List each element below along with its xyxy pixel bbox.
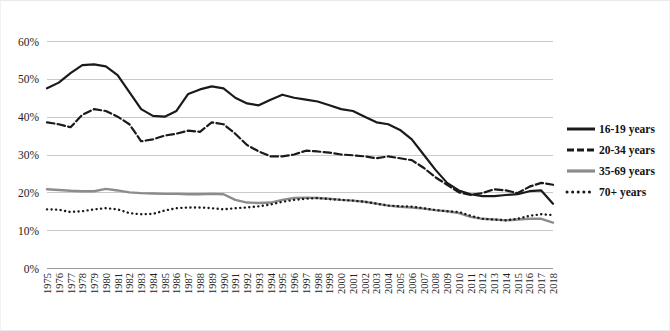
x-axis-tick-label: 2010 [454, 273, 465, 294]
y-axis-tick-label: 40% [18, 111, 40, 123]
x-axis-tick-label: 2017 [536, 273, 547, 294]
x-axis-tick-label: 1986 [171, 273, 182, 294]
gridlines [47, 42, 553, 269]
x-axis-tick-label: 1982 [124, 273, 135, 294]
x-axis-tick-label: 1993 [254, 273, 265, 294]
x-axis-tick-label: 1987 [183, 273, 194, 294]
x-axis-tick-label: 2000 [336, 273, 347, 294]
x-axis-tick-label: 2015 [513, 273, 524, 294]
x-axis-tick-label: 2018 [548, 273, 559, 294]
data-series [47, 64, 553, 222]
x-axis-tick-label: 2004 [383, 272, 394, 294]
x-axis-tick-label: 2001 [348, 273, 359, 294]
y-axis-tick-label: 0% [24, 263, 40, 275]
x-axis-tick-label: 2005 [395, 273, 406, 294]
x-axis-tick-label: 1997 [301, 273, 312, 294]
x-axis-tick-label: 1999 [324, 273, 335, 294]
x-axis-tick-label: 1980 [101, 273, 112, 294]
x-axis-tick-label: 2012 [477, 273, 488, 294]
x-axis-tick-labels: 1975197619771978197919801981198219831984… [42, 272, 559, 294]
legend-label-20-34-years: 20-34 years [599, 144, 655, 157]
x-axis-tick-label: 1983 [136, 273, 147, 294]
x-axis-tick-label: 2016 [524, 273, 535, 294]
x-axis-tick-label: 2007 [419, 273, 430, 294]
y-axis-tick-label: 10% [18, 225, 40, 237]
x-axis-tick-label: 2006 [407, 273, 418, 294]
x-axis-tick-label: 2009 [442, 273, 453, 294]
x-axis-tick-label: 1992 [242, 273, 253, 294]
y-axis-tick-label: 50% [18, 73, 40, 85]
y-axis-tick-labels: 0%10%20%30%40%50%60% [18, 36, 40, 275]
x-axis-tick-label: 1988 [195, 273, 206, 294]
line-chart: 0%10%20%30%40%50%60% 1975197619771978197… [1, 1, 670, 331]
x-axis-tick-label: 1994 [266, 272, 277, 294]
chart-legend: 16-19 years20-34 years35-69 years70+ yea… [567, 123, 655, 199]
x-axis-tick-label: 1984 [148, 272, 159, 294]
chart-container: 0%10%20%30%40%50%60% 1975197619771978197… [0, 0, 670, 331]
legend-label-35-69-years: 35-69 years [599, 165, 655, 178]
x-axis-tick-label: 1981 [113, 273, 124, 294]
y-axis-tick-label: 30% [18, 149, 40, 161]
y-axis-tick-label: 60% [18, 36, 40, 48]
x-axis-tick-label: 1979 [89, 273, 100, 294]
x-axis-tick-label: 1977 [66, 273, 77, 294]
x-axis-tick-label: 2002 [360, 273, 371, 294]
x-axis-tick-label: 2011 [466, 273, 477, 294]
x-axis-tick-label: 1985 [160, 273, 171, 294]
x-axis-tick-label: 2014 [501, 272, 512, 294]
x-axis-tick-label: 1998 [313, 273, 324, 294]
legend-label-16-19-years: 16-19 years [599, 123, 655, 136]
x-axis-tick-label: 1978 [77, 273, 88, 294]
x-axis-tick-label: 1996 [289, 273, 300, 294]
x-axis-tick-label: 1995 [277, 273, 288, 294]
legend-label-70-years: 70+ years [599, 186, 647, 199]
x-axis-tick-label: 2008 [430, 273, 441, 294]
x-axis-tick-label: 1989 [207, 273, 218, 294]
x-axis-tick-label: 1991 [230, 273, 241, 294]
x-axis-tick-label: 1990 [219, 273, 230, 294]
series-line-16-19-years [47, 64, 553, 203]
y-axis-tick-label: 20% [18, 187, 40, 199]
x-axis-tick-label: 1976 [54, 273, 65, 294]
series-line-20-34-years [47, 109, 553, 195]
x-axis-tick-label: 2013 [489, 273, 500, 294]
x-axis-tick-label: 1975 [42, 273, 53, 294]
x-axis-tick-label: 2003 [371, 273, 382, 294]
